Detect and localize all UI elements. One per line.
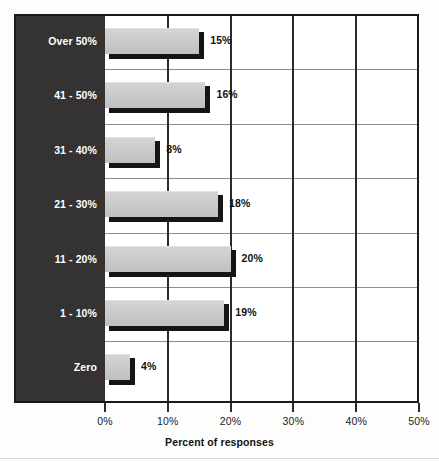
x-axis-tick-label: 40% [345, 415, 367, 427]
plot-area: 15%16%8%18%20%19%4% Over 50%41 - 50%31 -… [14, 14, 419, 403]
category-label: 41 - 50% [54, 89, 97, 101]
bar [105, 191, 224, 223]
bar [105, 354, 136, 386]
bar-shadow [109, 163, 159, 168]
gridline-horizontal [105, 341, 417, 342]
bar-shadow [155, 141, 160, 168]
bar-value-label: 19% [235, 306, 256, 318]
bar [105, 246, 237, 278]
gridline-horizontal [105, 178, 417, 179]
gridline-horizontal [105, 287, 417, 288]
x-axis-tick-label: 30% [283, 415, 305, 427]
bar-value-label: 16% [216, 88, 237, 100]
bar [105, 82, 211, 114]
x-axis-tick-label: 20% [220, 415, 242, 427]
gridline-horizontal [105, 124, 417, 125]
gridline-vertical [292, 16, 294, 401]
bar-value-label: 20% [242, 252, 263, 264]
bar-value-label: 18% [229, 197, 250, 209]
bar-shadow [199, 32, 204, 59]
bar-fill [105, 191, 218, 217]
category-label: 31 - 40% [54, 144, 97, 156]
bar-fill [105, 354, 130, 380]
x-axis-tick [292, 403, 294, 412]
bar-fill [105, 300, 224, 326]
x-axis-tick [230, 403, 232, 412]
bar-shadow [231, 250, 236, 277]
x-axis-tick [104, 403, 106, 412]
gridline-horizontal [105, 69, 417, 70]
bar-shadow [205, 86, 210, 113]
footer-divider [0, 458, 439, 459]
category-label: 11 - 20% [55, 253, 97, 265]
gridline-horizontal [105, 233, 417, 234]
x-axis-tick-label: 0% [97, 415, 113, 427]
category-label: Over 50% [48, 35, 97, 47]
bar-shadow [109, 326, 228, 331]
category-label: 21 - 30% [54, 198, 97, 210]
bar-shadow [109, 272, 235, 277]
bar-shadow [109, 108, 209, 113]
x-axis-tick [355, 403, 357, 412]
category-label: Zero [74, 361, 97, 373]
bar [105, 137, 161, 169]
bar-chart: 15%16%8%18%20%19%4% Over 50%41 - 50%31 -… [0, 0, 439, 461]
bar-shadow [218, 195, 223, 222]
category-label: 1 - 10% [60, 307, 97, 319]
bar-shadow [109, 54, 203, 59]
bar-fill [105, 137, 155, 163]
bar-fill [105, 28, 199, 54]
x-axis-title: Percent of responses [0, 436, 439, 448]
bar-shadow [109, 217, 222, 222]
bar-shadow [224, 304, 229, 331]
x-axis-tick-label: 10% [157, 415, 179, 427]
bar-value-label: 15% [210, 34, 231, 46]
bar-fill [105, 82, 205, 108]
gridline-vertical [355, 16, 357, 401]
bar-value-label: 4% [141, 360, 156, 372]
category-axis-panel: Over 50%41 - 50%31 - 40%21 - 30%11 - 20%… [16, 16, 105, 401]
x-axis-tick-label: 50% [408, 415, 430, 427]
bar-shadow [130, 358, 135, 385]
x-axis-tick [167, 403, 169, 412]
bar [105, 300, 230, 332]
bar-value-label: 8% [166, 143, 181, 155]
x-axis-tick [418, 403, 420, 412]
bar-fill [105, 246, 231, 272]
bar [105, 28, 205, 60]
